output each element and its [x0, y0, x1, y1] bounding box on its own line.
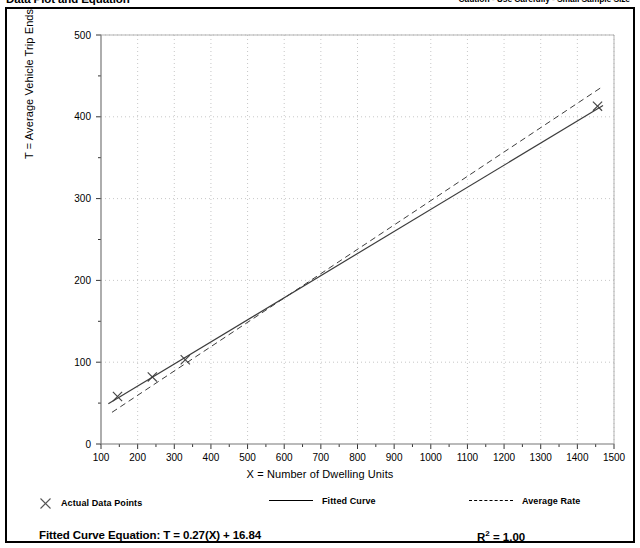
legend-item-fitted-curve: Fitted Curve [269, 496, 376, 506]
legend-item-actual-data-points: Actual Data Points [39, 496, 142, 509]
solid-line-icon [269, 496, 313, 506]
x-tick-label: 1100 [457, 452, 479, 463]
page-header: Data Plot and Equation Caution - Use Car… [0, 0, 640, 7]
chart-legend: Actual Data Points Fitted Curve Average … [7, 496, 633, 518]
x-tick-label: 1200 [493, 452, 516, 463]
page-title: Data Plot and Equation [6, 0, 130, 5]
y-tick-label: 400 [74, 111, 91, 122]
x-marker-icon [39, 496, 52, 509]
x-tick-label: 100 [93, 452, 110, 463]
legend-item-average-rate: Average Rate [469, 496, 580, 506]
data-series [108, 86, 603, 412]
y-tick-label: 200 [74, 275, 91, 286]
x-tick-label: 700 [313, 452, 330, 463]
x-tick-labels: 1002003004005006007008009001000110012001… [93, 452, 626, 463]
x-tick-label: 1300 [530, 452, 553, 463]
chart-card: 1002003004005006007008009001000110012001… [5, 7, 635, 543]
legend-label-average-rate: Average Rate [522, 496, 580, 506]
r-squared-value: R2 = 1.00 [477, 529, 525, 543]
x-tick-label: 800 [349, 452, 366, 463]
legend-label-fitted-curve: Fitted Curve [322, 496, 376, 506]
x-tick-label: 900 [386, 452, 403, 463]
grid-lines [101, 35, 614, 444]
y-tick-label: 0 [85, 439, 91, 450]
x-tick-label: 300 [166, 452, 183, 463]
x-tick-label: 1400 [566, 452, 589, 463]
r-squared-number: = 1.00 [490, 531, 526, 543]
chart-svg: 1002003004005006007008009001000110012001… [7, 9, 633, 489]
y-axis-label: T = Average Vehicle Trip Ends [23, 145, 35, 159]
axis-ticks [96, 35, 614, 449]
x-tick-label: 1000 [420, 452, 443, 463]
fitted-curve-equation: Fitted Curve Equation: T = 0.27(X) + 16.… [39, 529, 261, 541]
legend-label-actual-data-points: Actual Data Points [61, 498, 142, 508]
x-axis-label: X = Number of Dwelling Units [7, 468, 633, 480]
x-tick-label: 500 [239, 452, 256, 463]
x-tick-label: 200 [129, 452, 146, 463]
y-tick-label: 500 [74, 30, 91, 41]
chart-plot-area: 1002003004005006007008009001000110012001… [7, 9, 633, 489]
caution-note: Caution - Use Carefully - Small Sample S… [459, 0, 630, 4]
x-tick-label: 1500 [603, 452, 626, 463]
equation-row: Fitted Curve Equation: T = 0.27(X) + 16.… [7, 529, 633, 548]
fitted-curve-line [108, 106, 603, 404]
dashed-line-icon [469, 496, 513, 506]
y-tick-label: 300 [74, 193, 91, 204]
x-tick-label: 600 [276, 452, 293, 463]
x-tick-label: 400 [203, 452, 220, 463]
y-tick-labels: 0100200300400500 [74, 30, 91, 450]
y-tick-label: 100 [74, 357, 91, 368]
